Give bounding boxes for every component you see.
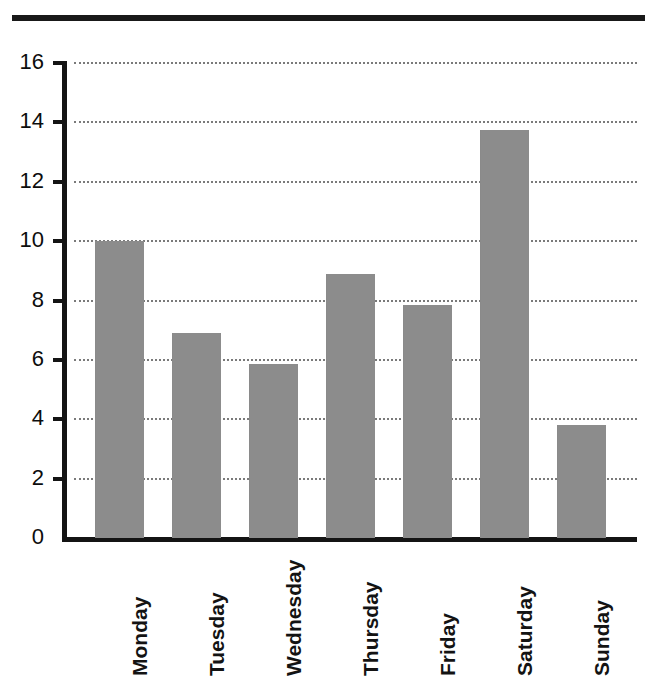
y-axis-tick-label: 4 [4, 407, 44, 429]
y-axis-tick-label: 10 [4, 229, 44, 251]
y-axis-tick-mark [53, 477, 63, 481]
y-axis-tick-mark [53, 358, 63, 362]
gridline [74, 181, 637, 183]
bar [249, 364, 298, 538]
x-axis-label: Friday [437, 613, 458, 676]
gridline [74, 62, 637, 64]
y-axis-tick-mark [53, 417, 63, 421]
y-axis-tick-label: 6 [4, 348, 44, 370]
y-axis-tick-mark [53, 299, 63, 303]
bar [172, 333, 221, 538]
y-axis-tick-label: 0 [4, 526, 44, 548]
x-axis-label: Monday [129, 597, 150, 676]
gridline [74, 240, 637, 242]
x-axis-label: Thursday [360, 581, 381, 676]
x-axis-label: Sunday [591, 600, 612, 676]
x-axis-label: Wednesday [283, 560, 304, 676]
y-axis-tick-label: 8 [4, 289, 44, 311]
bar [480, 130, 529, 538]
y-axis-tick-label: 2 [4, 467, 44, 489]
y-axis-tick-mark [53, 120, 63, 124]
y-axis-tick-mark [53, 180, 63, 184]
x-axis-label: Tuesday [206, 592, 227, 676]
x-axis-label: Saturday [514, 586, 535, 676]
y-axis-tick-label: 16 [4, 51, 44, 73]
plot-area: 0246810121416 MondayTuesdayWednesdayThur… [0, 0, 652, 683]
bar [95, 241, 144, 538]
gridline [74, 121, 637, 123]
y-axis-tick-mark [53, 239, 63, 243]
y-axis-tick-label: 14 [4, 110, 44, 132]
bar-chart-figure: 0246810121416 MondayTuesdayWednesdayThur… [0, 0, 652, 683]
y-axis-tick-mark [53, 61, 63, 65]
bar [403, 305, 452, 538]
y-axis-tick-label: 12 [4, 170, 44, 192]
bar [326, 274, 375, 538]
bar [557, 425, 606, 538]
